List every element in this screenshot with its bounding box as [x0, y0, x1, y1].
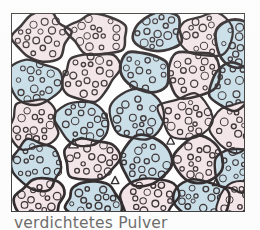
figure-page: verdichtetes Pulver — [0, 0, 260, 230]
figure-caption: verdichtetes Pulver — [14, 215, 254, 230]
particle — [243, 133, 244, 139]
illustration-frame — [11, 13, 245, 212]
compacted-powder-diagram — [12, 14, 244, 211]
